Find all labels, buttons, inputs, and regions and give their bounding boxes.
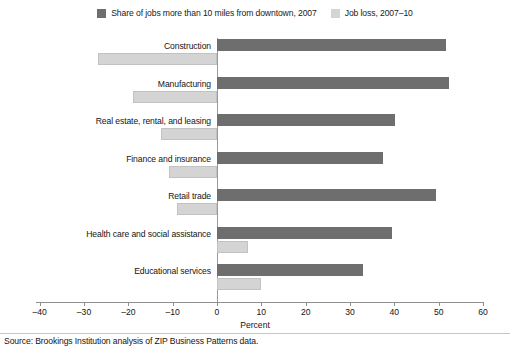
x-tick-label: –10 bbox=[165, 307, 179, 317]
x-tick-mark bbox=[40, 302, 41, 306]
category-label: Health care and social assistance bbox=[86, 229, 211, 239]
x-tick-label: –30 bbox=[77, 307, 91, 317]
category-label: Real estate, rental, and leasing bbox=[96, 116, 211, 126]
legend-label-share-of-jobs: Share of jobs more than 10 miles from do… bbox=[111, 8, 316, 18]
x-tick-mark bbox=[306, 302, 307, 306]
x-tick-label: 10 bbox=[257, 307, 267, 317]
x-tick-label: 20 bbox=[301, 307, 311, 317]
chart-row: Retail trade bbox=[0, 188, 510, 224]
category-label: Educational services bbox=[134, 266, 211, 276]
chart-plot-area: ConstructionManufacturingReal estate, re… bbox=[0, 30, 510, 302]
x-tick-label: 0 bbox=[215, 307, 220, 317]
legend-swatch-light-icon bbox=[331, 9, 340, 18]
x-tick-mark bbox=[394, 302, 395, 306]
bar-job-loss bbox=[169, 166, 217, 178]
chart-legend: Share of jobs more than 10 miles from do… bbox=[0, 8, 510, 18]
chart-row: Educational services bbox=[0, 263, 510, 299]
x-axis-line bbox=[36, 302, 483, 303]
bar-job-loss bbox=[177, 203, 217, 215]
bar-share-of-jobs bbox=[217, 264, 363, 276]
bar-share-of-jobs bbox=[217, 39, 446, 51]
bar-share-of-jobs bbox=[217, 152, 383, 164]
x-tick-label: –20 bbox=[121, 307, 135, 317]
bar-job-loss bbox=[217, 241, 248, 253]
category-label: Retail trade bbox=[168, 191, 211, 201]
x-tick-label: –40 bbox=[32, 307, 46, 317]
x-tick-mark bbox=[483, 302, 484, 306]
x-axis-label: Percent bbox=[0, 320, 510, 330]
bar-job-loss bbox=[133, 91, 217, 103]
source-divider bbox=[0, 333, 510, 334]
bar-share-of-jobs bbox=[217, 77, 449, 89]
x-tick-mark bbox=[84, 302, 85, 306]
bar-job-loss bbox=[161, 128, 217, 140]
x-tick-mark bbox=[261, 302, 262, 306]
bar-share-of-jobs bbox=[217, 189, 436, 201]
x-tick-mark bbox=[350, 302, 351, 306]
bar-job-loss bbox=[98, 53, 217, 65]
x-tick-mark bbox=[439, 302, 440, 306]
chart-row: Construction bbox=[0, 38, 510, 74]
chart-row: Health care and social assistance bbox=[0, 226, 510, 262]
x-tick-mark bbox=[128, 302, 129, 306]
x-tick-label: 50 bbox=[434, 307, 444, 317]
x-tick-label: 40 bbox=[390, 307, 400, 317]
legend-item-share-of-jobs: Share of jobs more than 10 miles from do… bbox=[97, 8, 316, 18]
bar-job-loss bbox=[217, 278, 261, 290]
legend-label-job-loss: Job loss, 2007–10 bbox=[345, 8, 413, 18]
legend-swatch-dark-icon bbox=[97, 9, 106, 18]
x-tick-mark bbox=[173, 302, 174, 306]
x-tick-label: 60 bbox=[478, 307, 488, 317]
bar-share-of-jobs bbox=[217, 114, 395, 126]
x-tick-label: 30 bbox=[345, 307, 355, 317]
category-label: Finance and insurance bbox=[126, 154, 211, 164]
chart-row: Finance and insurance bbox=[0, 151, 510, 187]
x-tick-mark bbox=[217, 302, 218, 306]
source-note: Source: Brookings Institution analysis o… bbox=[4, 336, 258, 346]
category-label: Construction bbox=[164, 41, 211, 51]
legend-item-job-loss: Job loss, 2007–10 bbox=[331, 8, 413, 18]
category-label: Manufacturing bbox=[158, 79, 211, 89]
chart-row: Real estate, rental, and leasing bbox=[0, 113, 510, 149]
chart-row: Manufacturing bbox=[0, 76, 510, 112]
bar-share-of-jobs bbox=[217, 227, 392, 239]
